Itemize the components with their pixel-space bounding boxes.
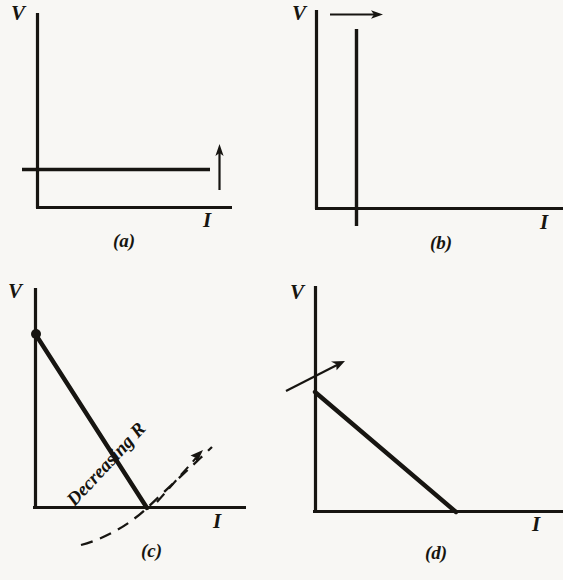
panel-d-x-axis-label: I: [532, 514, 540, 535]
panel-a: V I (a): [0, 0, 282, 270]
panel-d: V I (d): [282, 280, 563, 580]
panel-a-up-arrow-icon: [215, 144, 223, 190]
panel-b-x-axis-label: I: [540, 212, 548, 233]
panel-b-caption: (b): [430, 233, 452, 252]
panel-c: V I Decreasing R (c): [0, 280, 282, 580]
panel-a-plot: [0, 0, 282, 270]
panel-b-right-arrow-icon: [330, 10, 383, 18]
panel-a-x-axis-label: I: [203, 210, 211, 231]
panel-b-plot: [282, 0, 563, 270]
panel-b: V I (b): [282, 0, 563, 270]
figure-root: V I (a) V I: [0, 0, 563, 580]
panel-a-caption: (a): [113, 231, 135, 250]
panel-d-y-axis-label: V: [290, 282, 304, 303]
panel-c-x-axis-label: I: [213, 511, 221, 532]
panel-c-caption: (c): [141, 541, 162, 560]
panel-d-load-line: [315, 392, 456, 512]
panel-d-plot: [282, 280, 563, 580]
panel-d-caption: (d): [425, 543, 447, 562]
panel-a-y-axis-label: V: [11, 3, 25, 24]
panel-c-open-circuit-point-marker: [31, 329, 41, 339]
panel-b-y-axis-label: V: [292, 3, 306, 24]
panel-c-y-axis-label: V: [8, 281, 22, 302]
